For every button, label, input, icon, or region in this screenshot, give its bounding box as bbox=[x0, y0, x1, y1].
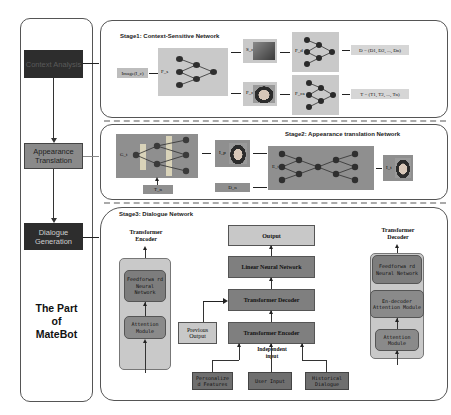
arrow-context-to-appearance bbox=[53, 78, 54, 140]
decoder-en-decoder-attention-block: En-decoder Attention Module bbox=[370, 290, 424, 318]
arrow-head bbox=[237, 343, 241, 347]
appearance-translation-module: Appearance Translation bbox=[24, 143, 83, 169]
scene-net-graph bbox=[292, 32, 339, 72]
decoder-caption-line1: Transformer bbox=[370, 227, 426, 234]
final-face-label: I_t bbox=[386, 165, 392, 170]
matebot-title: The Part of MateBot bbox=[20, 302, 93, 341]
stage3-title: Stage3: Dialogue Network bbox=[119, 211, 193, 217]
arrow-head bbox=[395, 350, 399, 354]
encoder-input-arrow bbox=[145, 341, 146, 373]
d-output-box: D = (D1, D2, ..., Dn) bbox=[351, 45, 409, 55]
user-input-box: User Input bbox=[248, 372, 292, 390]
arrow-head bbox=[143, 302, 147, 306]
stage1-divider bbox=[104, 120, 446, 122]
image-input-label: Image(I_c) bbox=[121, 71, 143, 76]
historical-down bbox=[326, 360, 327, 372]
decoder-attention-label: Attention Module bbox=[376, 334, 418, 347]
dialogue-generation-module: Dialogue Generation bbox=[24, 223, 83, 250]
generator-network: G_t bbox=[116, 134, 198, 178]
face-net-graph bbox=[292, 75, 339, 115]
t-output-box: T = (T1, T2, ..., Tn) bbox=[351, 89, 409, 99]
previous-output-box: Previous Output bbox=[178, 322, 217, 344]
user-input-arrow bbox=[271, 344, 272, 372]
arrow-head bbox=[300, 343, 304, 347]
encoder-attention-block: Attention Module bbox=[124, 316, 166, 339]
decoder-feedforward-block: Feedforwa rd Neural Network bbox=[372, 255, 422, 284]
arrow-head bbox=[395, 244, 399, 248]
historical-dialogue-label: Historical Dialogue bbox=[306, 375, 348, 388]
personalized-features-label: Personalize d Features bbox=[193, 375, 232, 388]
arrow-head bbox=[155, 177, 159, 181]
arrow-head bbox=[395, 318, 399, 322]
final-face-photo bbox=[395, 158, 411, 178]
transformer-encoder-box: Transformer Encoder bbox=[228, 322, 315, 344]
generated-face-label: I_p bbox=[219, 150, 226, 155]
generated-face-box: I_p bbox=[215, 140, 250, 167]
face-photo bbox=[253, 85, 275, 103]
generated-face-photo bbox=[229, 143, 247, 164]
arrow-scene-to-net bbox=[280, 52, 290, 53]
personalized-connector bbox=[212, 360, 239, 361]
independent-input-line1: Independent bbox=[245, 346, 299, 353]
arrow-appearance-to-dialogue bbox=[53, 169, 54, 219]
arrow-face-to-refiner bbox=[253, 153, 267, 154]
stage2-title: Stage2: Appearance translation Network bbox=[285, 131, 400, 137]
arrow-head bbox=[269, 245, 273, 249]
generator-graph bbox=[116, 134, 198, 178]
output-label: Output bbox=[262, 233, 281, 239]
final-face-box: I_t bbox=[383, 155, 413, 181]
user-input-label: User Input bbox=[255, 378, 285, 385]
arrow-refiner-to-final bbox=[376, 168, 382, 169]
network-edges bbox=[158, 48, 228, 96]
arrow-head bbox=[143, 246, 147, 250]
arrow-to-stage2 bbox=[83, 156, 99, 157]
scene-network: F_d bbox=[292, 32, 339, 72]
encoder-feedforward-block: Feedforwa rd Neural Network bbox=[124, 270, 166, 302]
context-analysis-module: Context Analysis bbox=[24, 50, 83, 78]
title-line-2: of bbox=[20, 315, 93, 328]
decoder-caption-line2: Decoder bbox=[370, 234, 426, 241]
linear-network-label: Linear Neural Network bbox=[241, 264, 301, 270]
transformer-decoder-box: Transformer Decoder bbox=[228, 289, 315, 311]
appearance-translation-label: Appearance Translation bbox=[25, 147, 82, 165]
output-box: Output bbox=[228, 225, 315, 246]
encoder-caption-line1: Transformer bbox=[118, 229, 174, 236]
t-output-label: T = (T1, T2, ..., Tn) bbox=[360, 92, 399, 97]
arrow-to-stage1 bbox=[83, 63, 99, 64]
arrow-to-d-output bbox=[342, 50, 350, 51]
face-image-box: F_c bbox=[243, 82, 277, 106]
scene-photo bbox=[253, 42, 275, 60]
arrow-face-to-net bbox=[280, 94, 290, 95]
decoder-feedforward-label: Feedforwa rd Neural Network bbox=[373, 263, 421, 276]
personalized-features-box: Personalize d Features bbox=[192, 372, 233, 390]
linear-network-box: Linear Neural Network bbox=[228, 256, 315, 278]
encoder-attention-label: Attention Module bbox=[125, 321, 165, 334]
decoder-attention-block: Attention Module bbox=[375, 329, 419, 351]
arrow-gen-to-face bbox=[202, 153, 211, 154]
arrow-head bbox=[269, 277, 273, 281]
image-input-box: Image(I_c) bbox=[117, 68, 148, 78]
previous-output-line2: Output bbox=[189, 333, 206, 339]
stage1-encoder-network: F_s bbox=[158, 48, 228, 96]
dn-input-label: D_n bbox=[228, 185, 237, 190]
arrow-head bbox=[143, 339, 147, 343]
decoder-caption: Transformer Decoder bbox=[370, 227, 426, 241]
arrow-dn-to-refiner bbox=[253, 187, 267, 188]
independent-input-line2: input bbox=[245, 353, 299, 360]
stage2-divider bbox=[104, 202, 446, 204]
decoder-en-decoder-attention-label: En-decoder Attention Module bbox=[371, 298, 423, 311]
d-output-label: D = (D1, D2, ..., Dn) bbox=[359, 48, 401, 53]
arrow-to-t-output bbox=[342, 94, 350, 95]
scene-image-box: S_c bbox=[243, 39, 277, 63]
arrow-to-face bbox=[231, 93, 241, 94]
encoder-caption-line2: Encoder bbox=[118, 236, 174, 243]
encoder-caption: Transformer Encoder bbox=[118, 229, 174, 243]
previous-output-arrow bbox=[203, 301, 225, 302]
arrow-head bbox=[269, 310, 273, 314]
transformer-encoder-label: Transformer Encoder bbox=[244, 330, 300, 336]
face-network: F_ca bbox=[292, 75, 339, 115]
arrow-to-stage3 bbox=[83, 237, 99, 238]
stage1-title: Stage1: Context-Sensitive Network bbox=[120, 33, 219, 39]
arrow-head bbox=[269, 343, 273, 347]
dn-input-box: D_n bbox=[215, 183, 250, 192]
